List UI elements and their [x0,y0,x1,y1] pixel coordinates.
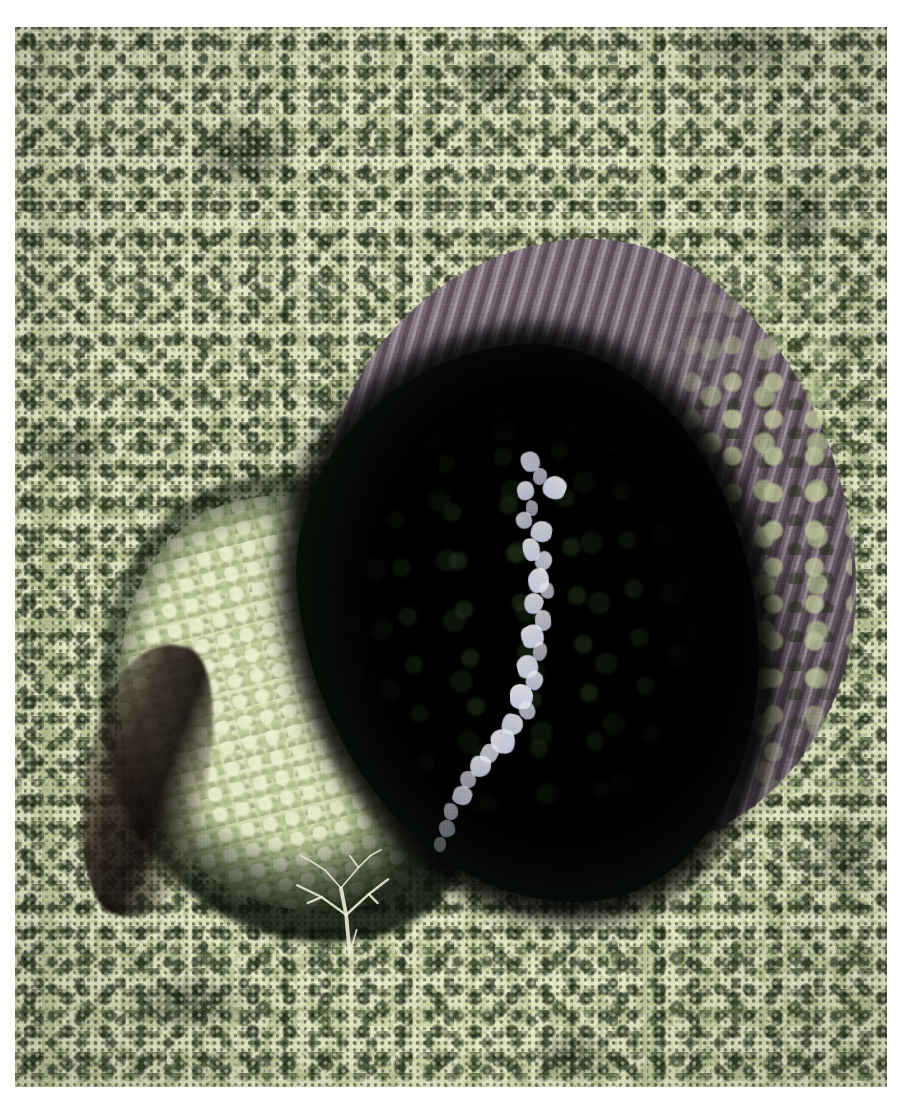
photo-page: Forested sinkhole / volcanic pit crater … [0,0,900,1104]
aerial-sinkhole-photograph [15,27,887,1087]
vignette-overlay [15,27,887,1087]
